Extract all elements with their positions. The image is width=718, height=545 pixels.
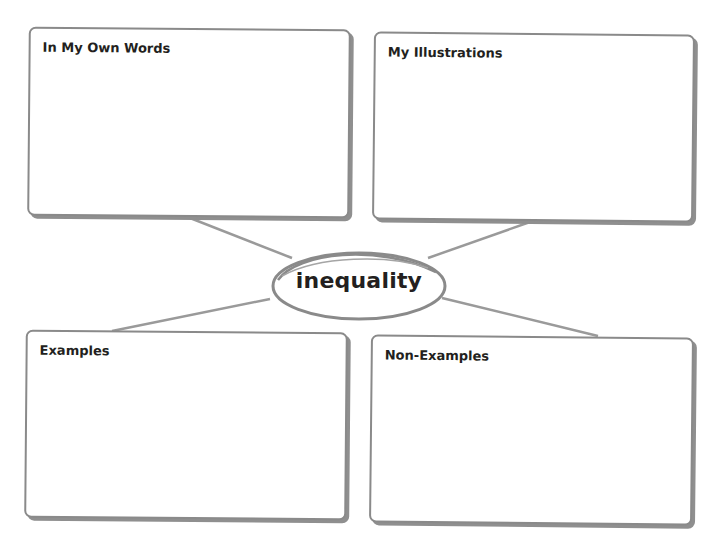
in-my-own-words-label: In My Own Words <box>43 40 171 56</box>
examples-writing-area[interactable] <box>34 366 337 511</box>
my-illustrations-label: My Illustrations <box>388 44 503 60</box>
examples-box: Examples <box>24 330 348 521</box>
in-my-own-words-writing-area[interactable] <box>37 63 340 209</box>
non-examples-label: Non-Examples <box>385 347 490 363</box>
vocabulary-term: inequality <box>268 268 450 293</box>
non-examples-writing-area[interactable] <box>379 370 683 515</box>
in-my-own-words-box: In My Own Words <box>27 27 351 219</box>
center-term-oval: inequality <box>268 246 450 322</box>
my-illustrations-drawing-area[interactable] <box>382 67 684 212</box>
connector-bottom-right <box>442 298 598 336</box>
examples-label: Examples <box>40 343 110 359</box>
non-examples-box: Non-Examples <box>369 334 694 525</box>
my-illustrations-box: My Illustrations <box>372 31 695 222</box>
connector-bottom-left <box>112 299 270 331</box>
